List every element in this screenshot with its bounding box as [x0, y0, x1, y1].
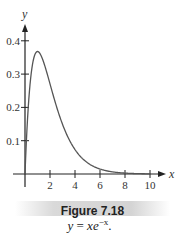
y-tick-label: 0.2	[6, 101, 20, 113]
formula-exponent: −x	[99, 217, 109, 227]
x-tick-label: 4	[72, 179, 78, 191]
y-tick-label: 0.1	[6, 135, 20, 147]
series-line	[25, 52, 150, 175]
figure-caption-band: Figure 7.18	[15, 201, 170, 216]
x-tick-label: 10	[145, 179, 157, 191]
x-tick-label: 2	[47, 179, 53, 191]
figure-formula: y = xe−x.	[0, 217, 179, 234]
formula-eq: =	[73, 218, 87, 233]
x-axis-arrow-icon	[158, 171, 166, 177]
y-axis-arrow-icon	[22, 24, 28, 32]
x-tick-label: 6	[97, 179, 103, 191]
chart: x y 246810 0.10.20.30.4	[0, 0, 179, 200]
x-tick-label: 8	[122, 179, 128, 191]
x-axis-label: x	[168, 167, 175, 181]
y-tick-label: 0.3	[6, 68, 20, 80]
formula-period: .	[108, 218, 111, 233]
figure-label: Figure 7.18	[61, 204, 124, 218]
y-axis-label: y	[21, 7, 28, 21]
y-tick-label: 0.4	[6, 35, 20, 47]
